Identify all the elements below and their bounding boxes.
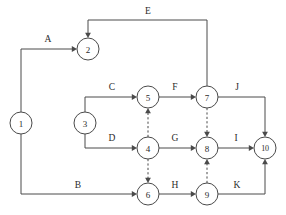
node-label-4: 4 — [146, 144, 151, 154]
node-label-3: 3 — [83, 119, 88, 129]
arrowhead-icon — [145, 178, 151, 183]
node-4[interactable]: 4 — [137, 137, 159, 159]
arrowheads-layer — [72, 33, 268, 197]
edge-1-2 — [21, 49, 73, 112]
network-diagram: ABCDEFGHIJK 12345678910 — [0, 0, 286, 215]
edge-label-H: H — [172, 180, 179, 190]
arrowhead-icon — [85, 33, 91, 38]
arrowhead-icon — [72, 46, 77, 52]
node-label-1: 1 — [19, 119, 24, 129]
arrowhead-icon — [191, 145, 196, 151]
edge-label-J: J — [235, 82, 239, 92]
node-label-8: 8 — [205, 144, 210, 154]
node-5[interactable]: 5 — [137, 86, 159, 108]
arrowhead-icon — [204, 159, 210, 164]
arrowhead-icon — [132, 191, 137, 197]
arrowhead-icon — [145, 108, 151, 113]
edge-7-2 — [88, 20, 207, 86]
edge-label-I: I — [234, 133, 237, 143]
edge-7-10 — [218, 97, 265, 133]
edge-label-B: B — [75, 180, 81, 190]
arrowhead-icon — [191, 191, 196, 197]
arrowhead-icon — [204, 132, 210, 137]
arrowhead-icon — [249, 145, 254, 151]
node-label-6: 6 — [146, 190, 151, 200]
node-label-5: 5 — [146, 93, 151, 103]
node-6[interactable]: 6 — [137, 183, 159, 205]
node-label-9: 9 — [205, 190, 210, 200]
edge-label-A: A — [45, 34, 52, 44]
network-diagram-canvas: ABCDEFGHIJK 12345678910 — [0, 0, 286, 215]
node-label-2: 2 — [86, 45, 91, 55]
edge-label-K: K — [234, 180, 241, 190]
edge-3-5 — [85, 97, 133, 112]
node-3[interactable]: 3 — [74, 112, 96, 134]
arrowhead-icon — [132, 94, 137, 100]
node-8[interactable]: 8 — [196, 137, 218, 159]
edge-label-D: D — [109, 133, 116, 143]
node-7[interactable]: 7 — [196, 86, 218, 108]
node-label-7: 7 — [205, 93, 210, 103]
edge-label-C: C — [109, 82, 115, 92]
arrowhead-icon — [262, 159, 268, 164]
edge-label-F: F — [172, 82, 177, 92]
arrowhead-icon — [191, 94, 196, 100]
node-10[interactable]: 10 — [254, 137, 276, 159]
edge-label-E: E — [145, 6, 151, 16]
node-1[interactable]: 1 — [10, 112, 32, 134]
arrowhead-icon — [132, 145, 137, 151]
edge-9-10 — [218, 163, 265, 194]
node-2[interactable]: 2 — [77, 38, 99, 60]
edge-label-G: G — [172, 133, 179, 143]
arrowhead-icon — [262, 132, 268, 137]
node-9[interactable]: 9 — [196, 183, 218, 205]
node-label-10: 10 — [261, 144, 269, 153]
